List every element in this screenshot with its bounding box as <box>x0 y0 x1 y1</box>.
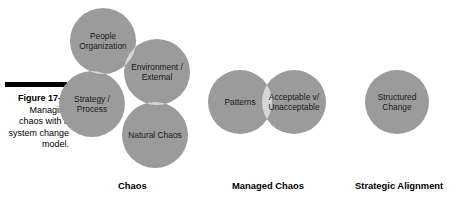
group-caption-managed-chaos: Managed Chaos <box>232 180 304 191</box>
group-caption-chaos: Chaos <box>118 180 147 191</box>
venn-circle-natural-chaos <box>122 102 188 168</box>
figure-container: Figure 17-1: Managing chaos with a syste… <box>0 0 458 200</box>
venn-circle-strategy-process <box>59 71 125 137</box>
group-caption-strategic-alignment: Strategic Alignment <box>355 180 443 191</box>
venn-circle-structured-change <box>365 70 429 134</box>
venn-diagram <box>0 0 458 200</box>
